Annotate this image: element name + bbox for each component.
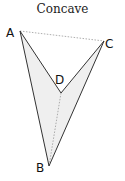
vertex-label-d: D (55, 73, 64, 87)
quadrilateral-fill (20, 31, 104, 166)
diagonal-ac (20, 31, 104, 41)
concave-quadrilateral-diagram: A C D B (0, 0, 125, 181)
vertex-label-c: C (105, 37, 113, 51)
vertex-label-a: A (6, 26, 15, 40)
vertex-label-b: B (36, 161, 44, 175)
